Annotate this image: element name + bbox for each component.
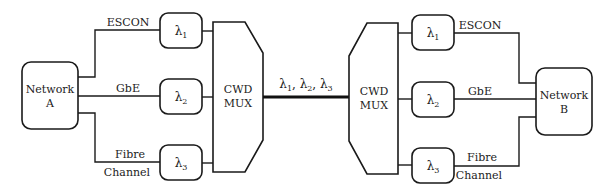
label-channel-left: Channel xyxy=(104,166,151,179)
cwd-mux-right: CWD MUX xyxy=(349,23,398,174)
wire-escon-right xyxy=(454,33,536,83)
mux-left-label-line1: CWD xyxy=(224,83,253,96)
network-a-label-line1: Network xyxy=(26,83,75,96)
cwd-mux-left: CWD MUX xyxy=(213,22,263,172)
mux-left-label-line2: MUX xyxy=(224,97,253,110)
network-a-node: Network A xyxy=(22,62,78,129)
label-channel-right: Channel xyxy=(456,169,503,182)
mux-right-label-line2: MUX xyxy=(360,99,389,112)
lambda-1-left: λ1 xyxy=(160,13,202,48)
network-b-node: Network B xyxy=(536,68,592,135)
cwdm-diagram: Network A ESCON GbE Fibre Channel λ1 λ2 … xyxy=(0,0,612,193)
lambda-2-left: λ2 xyxy=(160,79,202,114)
trunk-label: λ1, λ2, λ3 xyxy=(279,77,332,93)
label-escon-left: ESCON xyxy=(107,16,150,29)
lambda-3-right: λ3 xyxy=(412,148,454,183)
lambda-3-left: λ3 xyxy=(160,145,202,180)
label-fibre-right: Fibre xyxy=(467,151,497,164)
label-escon-right: ESCON xyxy=(459,19,502,32)
network-b-label-line2: B xyxy=(560,103,568,116)
network-b-label-line1: Network xyxy=(540,89,589,102)
lambda-1-right: λ1 xyxy=(412,15,454,50)
network-a-label-line2: A xyxy=(45,97,55,110)
label-gbe-right: GbE xyxy=(468,85,492,98)
label-gbe-left: GbE xyxy=(116,82,140,95)
mux-right-label-line1: CWD xyxy=(360,85,389,98)
wire-escon-left xyxy=(78,30,160,77)
label-fibre-left: Fibre xyxy=(115,148,145,161)
lambda-2-right: λ2 xyxy=(412,82,454,117)
